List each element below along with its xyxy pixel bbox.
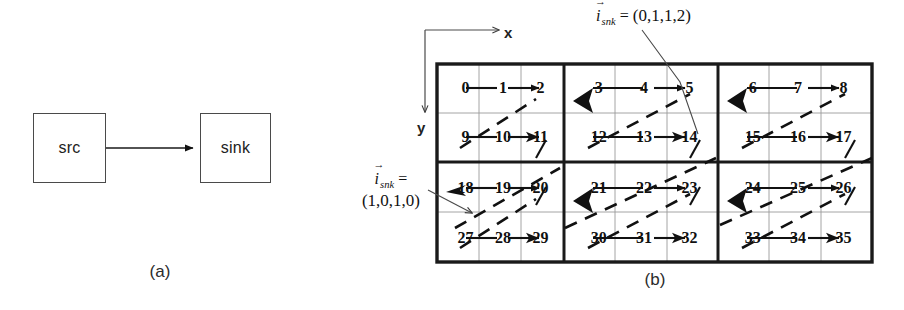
- grid-cell-number: 16: [790, 128, 806, 145]
- grid-cell-number: 12: [591, 128, 607, 145]
- grid-cell-number: 21: [591, 179, 607, 196]
- grid-cell-number: 32: [682, 229, 698, 246]
- grid-cell-number: 9: [462, 128, 470, 145]
- grid-cell-number: 14: [682, 128, 698, 145]
- grid-cell-number: 6: [749, 79, 757, 96]
- grid-cell-number: 23: [682, 179, 698, 196]
- figure-vector-layer: 0129101134512131467815161718192027282921…: [0, 0, 904, 310]
- grid-cell-number: 19: [495, 179, 511, 196]
- grid-cell-number: 20: [533, 179, 549, 196]
- grid-cell-number: 35: [836, 229, 852, 246]
- grid-cell-number: 29: [533, 229, 549, 246]
- grid-cell-number: 27: [458, 229, 474, 246]
- diagonal-dashed-dependence-arrows: [455, 94, 872, 248]
- grid-cell-number: 25: [790, 179, 806, 196]
- grid-cell-number: 22: [636, 179, 652, 196]
- grid-cell-number: 31: [636, 229, 652, 246]
- figure-root: src sink (a) (b) x y isnk = (0,1,1,2) is…: [0, 0, 904, 310]
- grid-cell-number: 0: [462, 79, 470, 96]
- grid-cell-number: 26: [836, 179, 852, 196]
- grid-cell-number: 5: [686, 79, 694, 96]
- grid-cell-number: 13: [636, 128, 652, 145]
- grid-cell-number: 2: [537, 79, 545, 96]
- grid-cell-number: 28: [495, 229, 511, 246]
- grid-cell-number: 17: [836, 128, 852, 145]
- grid-cell-number: 10: [495, 128, 511, 145]
- grid-cell-number: 4: [640, 79, 648, 96]
- grid-cell-number: 30: [591, 229, 607, 246]
- grid-cell-number: 33: [745, 229, 761, 246]
- grid-cell-number: 15: [745, 128, 761, 145]
- grid-cell-number: 1: [499, 79, 507, 96]
- grid-cell-number: 7: [794, 79, 802, 96]
- grid-cell-number: 18: [458, 179, 474, 196]
- grid-cell-number: 11: [533, 128, 548, 145]
- grid-cell-number: 3: [595, 79, 603, 96]
- grid-cell-number: 34: [790, 229, 806, 246]
- grid-cell-number: 8: [840, 79, 848, 96]
- grid-cell-number: 24: [745, 179, 761, 196]
